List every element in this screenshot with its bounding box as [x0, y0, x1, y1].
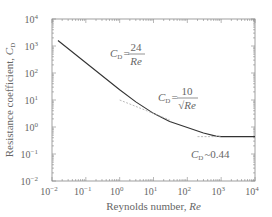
data-series [58, 40, 255, 136]
y-tick-label: 104 [25, 13, 39, 25]
svg-text:10: 10 [182, 85, 194, 97]
y-tick-label: 100 [25, 121, 39, 133]
annotation-0-44: CD~0.44 [191, 148, 230, 162]
y-axis-title: Resistance coefficient, CD [3, 43, 17, 158]
drag-curve [58, 40, 255, 136]
x-tick-label: 103 [211, 185, 225, 197]
y-tick-label: 10−1 [21, 148, 39, 160]
x-axis-title: Reynolds number, Re [106, 200, 201, 212]
x-tick-label: 104 [245, 185, 259, 197]
x-tick-labels: 10−210−1100101102103104 [40, 185, 259, 197]
y-tick-label: 103 [25, 40, 39, 52]
x-tick-label: 10−2 [40, 185, 58, 197]
svg-text:24: 24 [131, 41, 143, 53]
drag-coefficient-chart: 10−210−1100101102103104 10−210−110010110… [0, 0, 272, 217]
annotation-10-over-sqrt-re: CD= 10 √Re [158, 85, 198, 111]
x-tick-label: 102 [178, 185, 192, 197]
svg-text:CD=: CD= [158, 91, 178, 105]
svg-text:√Re: √Re [178, 99, 196, 111]
y-tick-labels: 10−210−1100101102103104 [21, 13, 39, 187]
svg-text:Re: Re [129, 55, 142, 67]
y-tick-label: 10−2 [21, 175, 39, 187]
y-tick-label: 102 [25, 67, 39, 79]
annotation-24-over-re: CD= 24 Re [110, 41, 145, 67]
svg-text:CD~0.44: CD~0.44 [191, 148, 230, 162]
x-tick-label: 10−1 [74, 185, 92, 197]
x-tick-label: 101 [144, 185, 158, 197]
svg-text:CD=: CD= [110, 47, 130, 61]
y-tick-label: 101 [25, 94, 39, 106]
x-tick-label: 100 [110, 185, 124, 197]
